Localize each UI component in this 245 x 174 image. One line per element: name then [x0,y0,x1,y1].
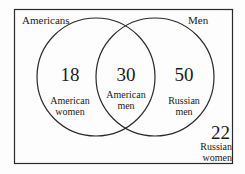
region-value-russian-men: 50 [166,65,202,84]
region-label-russian-men: Russian men [156,95,212,117]
region-value-american-men: 30 [108,65,144,84]
set-label-americans: Americans [22,15,70,26]
region-value-russian-women: 22 [202,123,230,142]
region-value-american-women: 18 [52,65,88,84]
region-label-russian-women: Russian women [186,141,232,163]
region-label-american-women: American women [42,95,98,117]
region-label-american-men: American men [98,89,154,111]
set-label-men: Men [188,15,208,26]
